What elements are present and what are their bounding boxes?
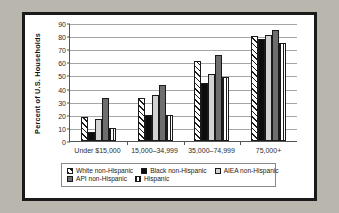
bar-aiea-3 — [265, 35, 272, 141]
y-axis-tick-label: 60 — [58, 60, 66, 67]
y-axis-tick-label: 0 — [62, 139, 66, 146]
legend-item[interactable]: Black non-Hispanic — [141, 168, 206, 175]
legend-swatch-icon — [135, 176, 141, 182]
bar-aiea-1 — [152, 95, 159, 141]
x-axis-label: 75,000+ — [240, 142, 297, 156]
bar-white-2 — [194, 61, 201, 141]
chart-inner: Percent of U.S. Households 9080706050403… — [25, 15, 314, 198]
bar-aiea-0 — [95, 119, 102, 141]
x-axis-labels: Under $15,00015,000–34,99935,000–74,9997… — [69, 142, 297, 156]
y-axis-tick-label: 10 — [58, 125, 66, 132]
chart-legend: White non-HispanicBlack non-HispanicAIEA… — [61, 163, 276, 187]
bar-api-1 — [159, 85, 166, 141]
legend-swatch-icon — [67, 176, 73, 182]
y-axis-tick-label: 50 — [58, 73, 66, 80]
x-axis-label: 35,000–74,999 — [183, 142, 240, 156]
y-axis-tick-label: 90 — [58, 21, 66, 28]
bar-hisp-1 — [166, 115, 173, 141]
legend-item[interactable]: Hispanic — [135, 176, 169, 183]
legend-row-1: White non-HispanicBlack non-HispanicAIEA… — [67, 168, 270, 175]
bar-black-2 — [201, 83, 208, 141]
bar-group — [184, 24, 241, 141]
bar-black-0 — [88, 132, 95, 141]
legend-label: White non-Hispanic — [76, 168, 133, 175]
bar-group — [70, 24, 127, 141]
chart-frame: Percent of U.S. Households 9080706050403… — [22, 12, 317, 201]
bar-group — [127, 24, 184, 141]
legend-label: Hispanic — [144, 176, 169, 183]
bar-api-0 — [102, 98, 109, 141]
legend-item[interactable]: AIEA non-Hispanic — [215, 168, 279, 175]
legend-label: Black non-Hispanic — [150, 168, 206, 175]
y-axis-title-text: Percent of U.S. Households — [33, 33, 42, 134]
y-axis-title: Percent of U.S. Households — [32, 24, 43, 142]
x-axis-label: Under $15,000 — [69, 142, 126, 156]
bar-hisp-2 — [222, 77, 229, 141]
legend-swatch-icon — [215, 168, 221, 174]
bar-white-1 — [138, 98, 145, 141]
y-axis-tick-label: 70 — [58, 47, 66, 54]
bar-black-3 — [258, 39, 265, 141]
x-axis-label: 15,000–34,999 — [126, 142, 183, 156]
bar-group — [240, 24, 297, 141]
bar-black-1 — [145, 115, 152, 141]
bar-api-2 — [215, 55, 222, 141]
legend-label: AIEA non-Hispanic — [224, 168, 279, 175]
plot-area: 9080706050403020100 — [69, 24, 297, 142]
bar-api-3 — [272, 30, 279, 141]
bar-white-3 — [251, 36, 258, 141]
bar-hisp-0 — [109, 128, 116, 141]
plot-area-wrapper: 9080706050403020100 — [69, 24, 297, 142]
legend-swatch-icon — [67, 168, 73, 174]
bar-hisp-3 — [279, 43, 286, 141]
bar-aiea-2 — [208, 74, 215, 141]
y-axis-tick-label: 30 — [58, 99, 66, 106]
legend-label: API non-Hispanic — [76, 176, 127, 183]
y-axis-tick-label: 80 — [58, 34, 66, 41]
bar-groups — [70, 24, 297, 141]
y-axis-tick-label: 20 — [58, 112, 66, 119]
y-axis-tick-label: 40 — [58, 86, 66, 93]
legend-item[interactable]: API non-Hispanic — [67, 176, 127, 183]
legend-item[interactable]: White non-Hispanic — [67, 168, 133, 175]
legend-row-2: API non-HispanicHispanic — [67, 176, 270, 183]
legend-swatch-icon — [141, 168, 147, 174]
bar-white-0 — [81, 117, 88, 141]
